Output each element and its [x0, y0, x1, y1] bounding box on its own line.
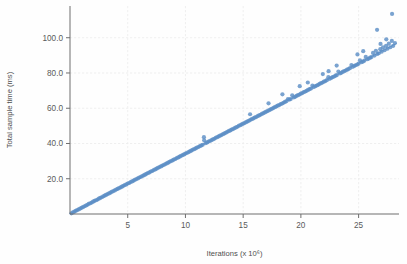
- svg-text:5: 5: [125, 221, 130, 230]
- svg-text:100.0: 100.0: [43, 34, 64, 43]
- grid-lines: [70, 6, 399, 214]
- svg-text:25: 25: [354, 221, 364, 230]
- svg-text:60.0: 60.0: [47, 104, 63, 113]
- data-points: [69, 12, 397, 216]
- scatter-plot: 20.040.060.080.0100.0510152025Iterations…: [0, 0, 407, 264]
- svg-text:20.0: 20.0: [47, 175, 63, 184]
- axis-labels: 20.040.060.080.0100.0510152025Iterations…: [5, 34, 364, 258]
- svg-text:80.0: 80.0: [47, 69, 63, 78]
- svg-text:Iterations (x 10⁶): Iterations (x 10⁶): [207, 249, 263, 258]
- svg-text:40.0: 40.0: [47, 139, 63, 148]
- svg-text:Total sample time (ms): Total sample time (ms): [5, 71, 14, 148]
- svg-text:15: 15: [239, 221, 249, 230]
- svg-text:10: 10: [181, 221, 191, 230]
- svg-text:20: 20: [296, 221, 306, 230]
- chart-figure: 20.040.060.080.0100.0510152025Iterations…: [0, 0, 407, 264]
